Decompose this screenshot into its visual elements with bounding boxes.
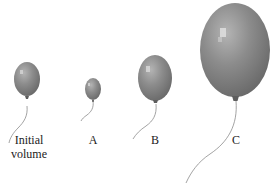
balloon-body xyxy=(138,55,172,101)
balloon-string xyxy=(186,101,236,183)
balloon-string xyxy=(81,101,93,121)
label-c: C xyxy=(232,133,240,147)
label-a: A xyxy=(89,133,98,147)
balloon-highlight xyxy=(146,66,150,72)
balloon-knot xyxy=(25,96,29,99)
balloon-initial xyxy=(9,62,40,143)
balloon-a xyxy=(81,78,101,121)
balloon-highlight xyxy=(220,28,226,37)
balloon-highlight xyxy=(88,83,90,86)
balloon-knot xyxy=(92,100,94,102)
balloon-body xyxy=(85,78,101,100)
balloon-c xyxy=(186,3,270,183)
balloon-highlight xyxy=(20,70,23,74)
label-b: B xyxy=(151,133,159,147)
label-initial-line2: volume xyxy=(11,147,47,161)
balloon-body xyxy=(14,62,40,96)
label-initial-volume: Initial volume xyxy=(11,133,47,161)
balloon-body xyxy=(200,3,270,97)
label-initial-line1: Initial xyxy=(11,133,47,147)
balloon-knot xyxy=(153,100,158,103)
balloon-highlight xyxy=(218,37,222,42)
balloon-knot xyxy=(232,96,239,101)
balloon-b xyxy=(133,55,172,139)
